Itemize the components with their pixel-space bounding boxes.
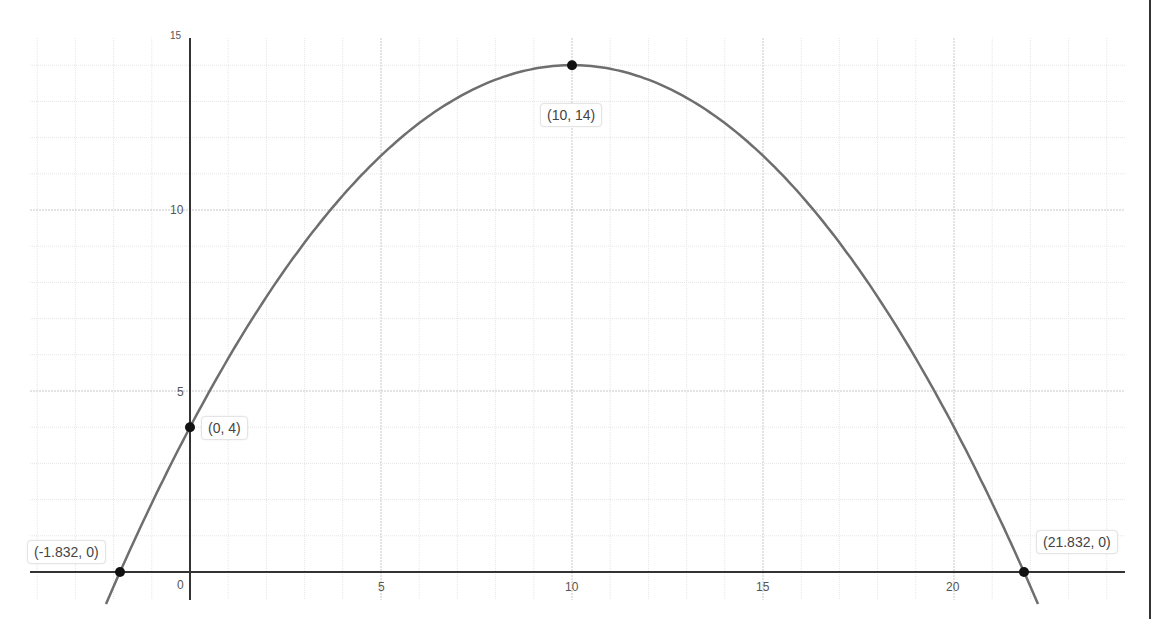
x-tick-5: 5 [378, 580, 385, 594]
x-tick-15: 15 [756, 580, 769, 594]
point-label-left-root: (-1.832, 0) [27, 540, 106, 564]
y-tick-5: 5 [177, 385, 184, 399]
graph-plot [0, 0, 1162, 619]
y-tick-10: 10 [170, 203, 183, 217]
point-label-right-root: (21.832, 0) [1036, 530, 1118, 554]
point-label-y-intercept: (0, 4) [201, 416, 248, 440]
point-label-vertex: (10, 14) [540, 103, 602, 127]
y-tick-15: 15 [170, 30, 181, 41]
point-marker [1019, 567, 1029, 577]
frame-border [1149, 0, 1151, 619]
x-tick-0: 0 [177, 578, 184, 592]
point-marker [567, 60, 577, 70]
x-tick-10: 10 [565, 580, 578, 594]
point-marker [115, 567, 125, 577]
point-marker [185, 422, 195, 432]
x-tick-20: 20 [946, 580, 959, 594]
